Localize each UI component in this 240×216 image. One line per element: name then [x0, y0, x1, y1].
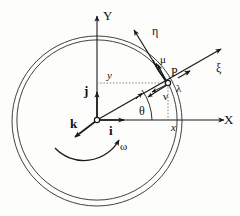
label-omega: ω	[120, 141, 127, 152]
label-basis-k: k	[70, 117, 77, 130]
label-xi: ξ	[216, 62, 221, 74]
theta-arc-arrow	[136, 93, 142, 99]
origin-marker	[94, 117, 99, 122]
label-axis-x: X	[224, 113, 233, 126]
xi-axis	[97, 49, 221, 120]
label-angle-theta: θ	[139, 105, 145, 117]
label-point-p: P	[171, 66, 178, 78]
point-p-marker	[165, 80, 170, 85]
label-mu: μ	[160, 54, 166, 65]
diagram-canvas	[0, 0, 240, 216]
label-axis-y: Y	[103, 9, 112, 22]
label-lambda: λ	[176, 83, 181, 94]
label-nu: ν	[163, 91, 168, 102]
label-basis-j: j	[84, 84, 88, 97]
vector-kinematics-figure: X Y i j k x y P θ ω ξ η μ ν λ	[0, 0, 240, 216]
label-coord-x: x	[171, 122, 176, 133]
label-coord-y: y	[107, 70, 112, 81]
label-eta: η	[152, 25, 158, 37]
label-basis-i: i	[109, 124, 113, 137]
omega-arc	[55, 140, 119, 161]
basis-vector-k	[75, 121, 96, 137]
